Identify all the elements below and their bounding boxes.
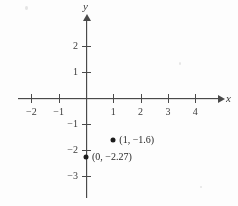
x-tick-mark	[31, 94, 32, 103]
x-axis-arrow-icon	[218, 95, 225, 103]
y-tick-mark	[82, 124, 91, 125]
x-tick-label: 4	[193, 107, 198, 117]
y-tick-mark	[82, 150, 91, 151]
y-tick-mark	[82, 72, 91, 73]
y-axis-label: y	[83, 1, 88, 12]
x-tick-mark	[168, 94, 169, 103]
y-tick-label: 1	[73, 67, 78, 77]
data-point-label: (1, −1.6)	[119, 135, 154, 145]
y-tick-label: −1	[67, 119, 78, 129]
data-point-marker	[111, 137, 116, 142]
x-axis-label: x	[226, 93, 231, 104]
y-tick-mark	[82, 176, 91, 177]
y-tick-label: −2	[67, 145, 78, 155]
y-tick-label: 2	[73, 41, 78, 51]
x-tick-label: −2	[26, 107, 37, 117]
data-point-label: (0, −2.27)	[92, 152, 132, 162]
x-tick-label: 2	[138, 107, 143, 117]
scan-speck	[200, 186, 202, 188]
scan-speck	[25, 6, 28, 10]
x-tick-mark	[141, 94, 142, 103]
y-tick-mark	[82, 46, 91, 47]
y-tick-label: −3	[67, 171, 78, 181]
x-tick-label: 3	[165, 107, 170, 117]
x-tick-mark	[113, 94, 114, 103]
x-tick-label: 1	[111, 107, 116, 117]
coordinate-plane-figure: x y −2−11234 21−1−2−3 (1, −1.6)(0, −2.27…	[0, 0, 238, 206]
y-axis-arrow-icon	[83, 14, 91, 21]
x-tick-mark	[195, 94, 196, 103]
x-axis-line	[18, 98, 222, 99]
x-tick-label: −1	[53, 107, 64, 117]
scan-speck	[179, 62, 181, 65]
data-point-marker	[84, 155, 89, 160]
x-tick-mark	[59, 94, 60, 103]
